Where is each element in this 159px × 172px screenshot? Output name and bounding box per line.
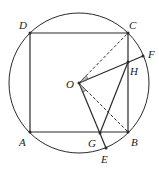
dashed-segment-oc [79,33,128,83]
label-a: A [18,136,26,148]
label-e: E [100,153,108,165]
label-c: C [129,19,137,31]
label-o: O [66,78,74,90]
label-b: B [131,136,138,148]
angle-mark-boe [79,83,86,92]
label-f: F [147,48,155,60]
label-d: D [18,19,27,31]
label-g: G [88,137,96,149]
label-h: H [129,65,139,77]
geometry-diagram: A B C D O F H G E [0,0,159,172]
angle-mark-cof [79,76,88,83]
